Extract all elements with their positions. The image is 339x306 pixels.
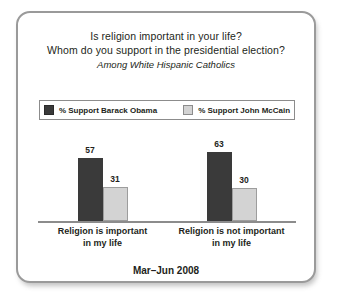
x-axis-label-line-2: in my life (167, 238, 296, 250)
bar-slot-obama-important: 57 (78, 133, 103, 221)
bar-value-obama-not-important: 63 (214, 139, 223, 150)
x-axis-label-line-1: Religion is not important (179, 226, 285, 236)
bar-slot-obama-not-important: 63 (207, 133, 232, 221)
bar-groups: 57 31 63 (38, 133, 296, 221)
bar-value-mccain-important: 31 (110, 174, 119, 185)
bar-value-obama-important: 57 (85, 145, 94, 156)
x-axis-label-religion-important: Religion is important in my life (38, 226, 167, 249)
bar-slot-mccain-important: 31 (103, 133, 128, 221)
x-axis-label-line-2: in my life (38, 238, 167, 250)
screenshot-root: Is religion important in your life? Whom… (0, 0, 339, 306)
bar-slot-mccain-not-important: 30 (232, 133, 257, 221)
x-axis-labels: Religion is important in my life Religio… (38, 226, 296, 249)
bar-group-religion-important: 57 31 (38, 133, 167, 221)
bar-obama-important[interactable] (78, 158, 103, 221)
page-title-line-1: Is religion important in your life? (18, 29, 314, 43)
bar-obama-not-important[interactable] (207, 152, 232, 221)
chart-footer-date: Mar–Jun 2008 (18, 265, 314, 276)
legend-label-mccain: % Support John McCain (198, 106, 290, 115)
x-axis-label-religion-not-important: Religion is not important in my life (167, 226, 296, 249)
chart-legend: % Support Barack Obama % Support John Mc… (39, 100, 295, 120)
x-axis-line (38, 221, 296, 223)
bar-mccain-not-important[interactable] (232, 188, 257, 221)
legend-item-mccain[interactable]: % Support John McCain (183, 105, 290, 115)
bar-group-bars: 57 31 (38, 133, 167, 221)
bar-value-mccain-not-important: 30 (239, 175, 248, 186)
legend-swatch-obama-icon (44, 105, 54, 115)
chart-title-block: Is religion important in your life? Whom… (18, 29, 314, 72)
x-axis-label-line-1: Religion is important (58, 226, 148, 236)
legend-swatch-mccain-icon (183, 105, 193, 115)
bar-mccain-important[interactable] (103, 187, 128, 221)
bar-group-religion-not-important: 63 30 (167, 133, 296, 221)
plot-area: 57 31 63 (38, 133, 296, 223)
legend-item-obama[interactable]: % Support Barack Obama (44, 105, 157, 115)
bar-group-bars: 63 30 (167, 133, 296, 221)
page-title-line-2: Whom do you support in the presidential … (18, 43, 314, 57)
legend-label-obama: % Support Barack Obama (59, 106, 157, 115)
chart-subtitle: Among White Hispanic Catholics (18, 58, 314, 72)
chart-card: Is religion important in your life? Whom… (16, 11, 316, 283)
